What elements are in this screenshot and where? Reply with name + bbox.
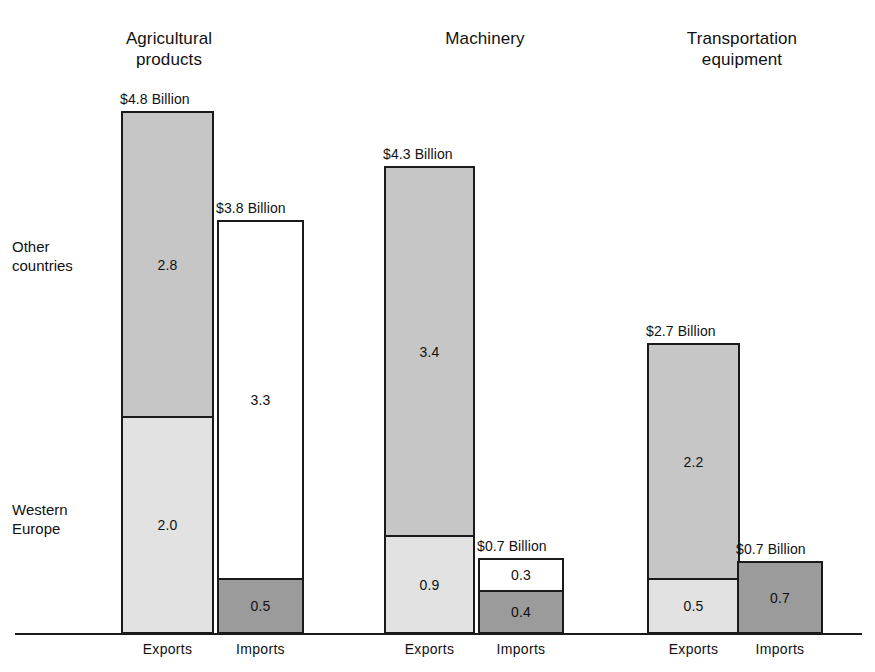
bar-segment-western-europe[interactable]: 0.5 [217,578,304,634]
tick-label-agricultural-imports: Imports [217,641,304,657]
bar-total-agricultural-exports: $4.8 Billion [120,91,190,107]
tick-label-agricultural-exports: Exports [121,641,214,657]
series-label-other-countries: Other countries [12,237,104,275]
segment-value: 3.3 [250,392,270,408]
bar-machinery-exports[interactable]: 3.4 0.9 [384,166,475,634]
series-label-western-europe: Western Europe [12,500,104,538]
bar-segment-other-countries[interactable]: 3.3 [217,220,304,580]
bar-total-transportation-imports: $0.7 Billion [736,541,806,557]
bar-agricultural-exports[interactable]: 2.8 2.0 [121,111,214,634]
tick-label-machinery-imports: Imports [478,641,564,657]
bar-segment-western-europe[interactable]: 0.5 [647,578,740,634]
bar-total-agricultural-imports: $3.8 Billion [216,200,286,216]
segment-value: 2.2 [683,454,703,470]
tick-label-transportation-imports: Imports [737,641,823,657]
bar-agricultural-imports[interactable]: 3.3 0.5 [217,220,304,634]
bar-segment-other-countries[interactable]: 0.3 [478,558,564,592]
bar-machinery-imports[interactable]: 0.3 0.4 [478,558,564,634]
group-title-machinery: Machinery [420,28,550,49]
segment-value: 0.3 [511,567,531,583]
x-axis-baseline [15,633,862,635]
segment-value: 0.4 [511,604,531,620]
bar-segment-western-europe[interactable]: 2.0 [121,416,214,634]
segment-value: 2.8 [157,257,177,273]
stacked-bar-chart: Agricultural products Machinery Transpor… [0,0,875,672]
group-title-agricultural-products: Agricultural products [104,28,234,70]
bar-segment-western-europe[interactable]: 0.7 [737,561,823,634]
bar-total-machinery-exports: $4.3 Billion [383,146,453,162]
bar-segment-western-europe[interactable]: 0.4 [478,590,564,634]
bar-total-machinery-imports: $0.7 Billion [477,538,547,554]
segment-value: 0.7 [770,590,790,606]
segment-value: 3.4 [419,344,439,360]
tick-label-transportation-exports: Exports [647,641,740,657]
group-title-transportation-equipment: Transportation equipment [662,28,822,70]
bar-segment-western-europe[interactable]: 0.9 [384,535,475,634]
bar-segment-other-countries[interactable]: 3.4 [384,166,475,537]
bar-transportation-imports[interactable]: 0.7 [737,561,823,634]
bar-segment-other-countries[interactable]: 2.2 [647,343,740,580]
bar-segment-other-countries[interactable]: 2.8 [121,111,214,418]
segment-value: 0.5 [250,598,270,614]
segment-value: 0.9 [419,577,439,593]
bar-transportation-exports[interactable]: 2.2 0.5 [647,343,740,634]
bar-total-transportation-exports: $2.7 Billion [646,323,716,339]
tick-label-machinery-exports: Exports [384,641,475,657]
segment-value: 0.5 [683,598,703,614]
segment-value: 2.0 [157,517,177,533]
